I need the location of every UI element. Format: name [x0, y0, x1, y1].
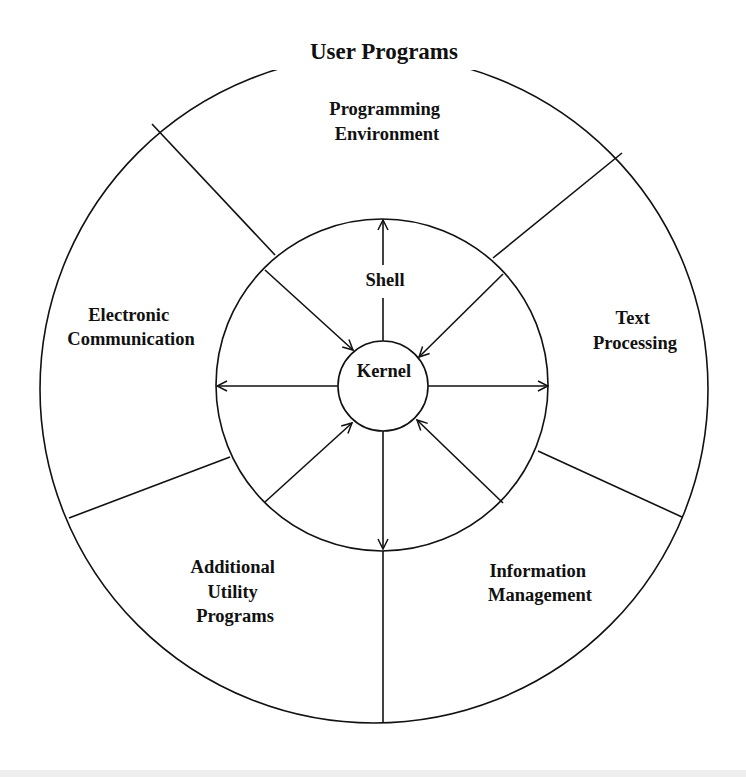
segment-text-processing: Text Processing — [593, 308, 678, 353]
arrow-lower-left-inward — [265, 423, 352, 502]
segment-additional-utility-programs: Additional Utility Programs — [191, 557, 280, 626]
outer-divider-lower-left — [69, 457, 230, 518]
arrow-upper-right-inward — [419, 274, 503, 357]
unix-layers-diagram: User Programs Programming Environment Te… — [0, 0, 746, 777]
kernel-label: Kernel — [357, 361, 411, 381]
outer-divider-upper-left — [152, 124, 275, 255]
segment-programming-environment: Programming Environment — [329, 99, 444, 144]
title-user-programs: User Programs — [310, 39, 458, 64]
outer-divider-lower-right — [538, 451, 682, 517]
segment-information-management: Information Management — [488, 561, 593, 605]
arrow-upper-left-inward — [265, 270, 353, 350]
arrow-lower-right-inward — [417, 420, 503, 503]
outer-ring-user-programs — [40, 55, 708, 723]
bottom-border-strip — [0, 770, 746, 777]
segment-electronic-communication: Electronic Communication — [67, 305, 195, 349]
shell-label: Shell — [365, 270, 404, 290]
kernel-circle — [338, 341, 428, 431]
outer-divider-upper-right — [493, 153, 622, 258]
